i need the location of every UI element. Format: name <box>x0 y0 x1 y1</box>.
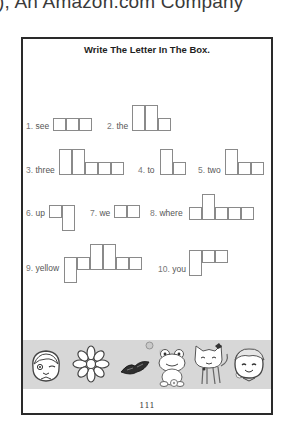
letter-box[interactable] <box>241 207 254 220</box>
letter-box[interactable] <box>251 162 264 175</box>
letter-box[interactable] <box>72 149 85 175</box>
letter-box[interactable] <box>202 194 215 220</box>
item-label-where: 8. where <box>150 208 183 218</box>
item-label-you: 10. you <box>158 264 186 274</box>
small-flower-icon <box>169 378 179 388</box>
item-label-see: 1. see <box>26 121 49 131</box>
cat-icon <box>191 340 231 388</box>
letter-box[interactable] <box>132 105 145 131</box>
item-label-the: 2. the <box>107 121 128 131</box>
worksheet-page: Write The Letter In The Box. 1. see 2. t… <box>21 37 273 415</box>
letter-box[interactable] <box>53 118 66 131</box>
letter-box[interactable] <box>114 205 127 218</box>
flower-icon <box>72 345 110 385</box>
butterfly-icon <box>119 358 151 378</box>
item-label-to: 4. to <box>138 165 155 175</box>
letter-box[interactable] <box>189 250 202 276</box>
letter-box[interactable] <box>228 207 241 220</box>
letter-box[interactable] <box>160 149 173 175</box>
letter-box[interactable] <box>77 257 90 270</box>
item-label-we: 7. we <box>90 208 110 218</box>
letter-box[interactable] <box>129 257 142 270</box>
page-number: 111 <box>23 401 271 410</box>
letter-box[interactable] <box>64 257 77 283</box>
letter-box[interactable] <box>116 257 129 270</box>
letter-box[interactable] <box>85 162 98 175</box>
letter-box[interactable] <box>59 149 72 175</box>
item-label-two: 5. two <box>198 165 221 175</box>
publisher-caption: ), An Amazon.com Company <box>0 0 244 13</box>
letter-box[interactable] <box>49 205 62 218</box>
letter-box[interactable] <box>158 118 171 131</box>
letter-box[interactable] <box>79 118 92 131</box>
item-label-up: 6. up <box>26 208 45 218</box>
boy-face-icon <box>231 346 267 384</box>
letter-box[interactable] <box>90 244 103 270</box>
item-label-yellow: 9. yellow <box>26 263 59 273</box>
letter-box[interactable] <box>238 162 251 175</box>
letter-box[interactable] <box>145 105 158 131</box>
letter-box[interactable] <box>98 162 111 175</box>
letter-box[interactable] <box>189 207 202 220</box>
girl-face-icon <box>28 348 64 384</box>
small-flower-icon <box>145 341 154 350</box>
worksheet-title: Write The Letter In The Box. <box>23 44 271 55</box>
letter-box[interactable] <box>173 162 186 175</box>
letter-box[interactable] <box>127 205 140 218</box>
letter-box[interactable] <box>111 162 124 175</box>
letter-box[interactable] <box>103 244 116 270</box>
letter-box[interactable] <box>225 149 238 175</box>
letter-box[interactable] <box>62 205 75 231</box>
letter-box[interactable] <box>215 250 228 263</box>
letter-box[interactable] <box>66 118 79 131</box>
letter-box[interactable] <box>202 250 215 263</box>
illustration-banner <box>23 340 271 389</box>
item-label-three: 3. three <box>26 165 55 175</box>
letter-box[interactable] <box>215 207 228 220</box>
